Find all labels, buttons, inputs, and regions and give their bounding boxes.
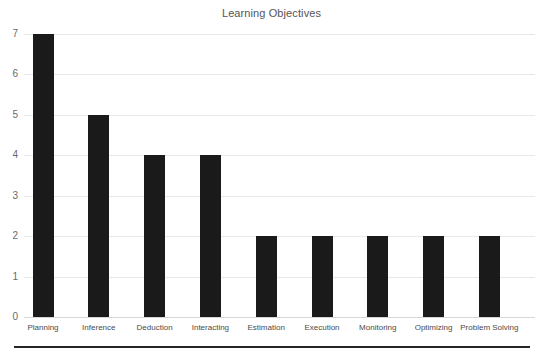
- x-tick-label: Planning: [27, 324, 58, 333]
- gridline-0: [24, 317, 535, 318]
- x-tick-label: Problem Solving: [460, 324, 518, 333]
- gridline-6: [24, 74, 535, 75]
- x-tick-label: Execution: [304, 324, 339, 333]
- y-tick-7: 7: [2, 29, 18, 39]
- bar: [423, 236, 444, 317]
- y-tick-4: 4: [2, 150, 18, 160]
- y-tick-5: 5: [2, 110, 18, 120]
- bar: [33, 34, 54, 317]
- bar: [312, 236, 333, 317]
- bar: [479, 236, 500, 317]
- bar: [256, 236, 277, 317]
- bar-chart: Learning Objectives 01234567 PlanningInf…: [0, 0, 543, 357]
- bar: [200, 155, 221, 317]
- bar: [367, 236, 388, 317]
- plot-area: [24, 34, 535, 317]
- chart-title: Learning Objectives: [0, 7, 543, 19]
- gridline-7: [24, 34, 535, 35]
- bottom-divider: [14, 346, 530, 348]
- x-tick-label: Inference: [82, 324, 115, 333]
- x-tick-label: Estimation: [248, 324, 285, 333]
- bar: [88, 115, 109, 317]
- y-tick-0: 0: [2, 312, 18, 322]
- y-tick-1: 1: [2, 272, 18, 282]
- x-tick-label: Optimizing: [415, 324, 453, 333]
- x-tick-label: Deduction: [137, 324, 173, 333]
- y-tick-6: 6: [2, 69, 18, 79]
- x-tick-label: Monitoring: [359, 324, 396, 333]
- x-tick-label: Interacting: [192, 324, 229, 333]
- y-tick-2: 2: [2, 231, 18, 241]
- y-tick-3: 3: [2, 191, 18, 201]
- bar: [144, 155, 165, 317]
